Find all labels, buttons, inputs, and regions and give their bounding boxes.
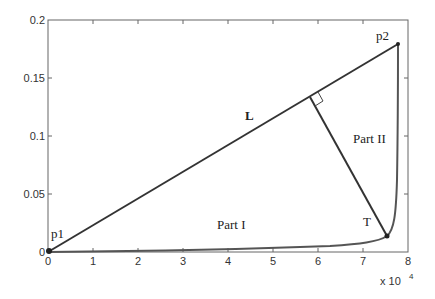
y-tick-labels: 0 0.05 0.1 0.15 0.2 xyxy=(24,14,45,258)
svg-text:0: 0 xyxy=(39,246,45,258)
svg-text:6: 6 xyxy=(315,255,321,267)
label-p1: p1 xyxy=(51,226,64,241)
label-L: L xyxy=(245,108,254,123)
point-p2 xyxy=(396,42,400,46)
svg-text:0.1: 0.1 xyxy=(30,130,45,142)
svg-text:0.05: 0.05 xyxy=(24,188,45,200)
x-multiplier-exponent: 4 xyxy=(409,272,414,281)
point-T xyxy=(385,234,390,239)
svg-text:1: 1 xyxy=(90,255,96,267)
label-T: T xyxy=(363,214,371,229)
line-T xyxy=(310,97,387,236)
svg-text:0.2: 0.2 xyxy=(30,14,45,26)
label-part1: Part I xyxy=(217,217,246,232)
chart-svg: 0 1 2 3 4 5 6 7 8 0 0.05 0.1 0.15 0.2 x … xyxy=(0,0,435,299)
svg-text:5: 5 xyxy=(270,255,276,267)
label-p2: p2 xyxy=(376,28,389,43)
right-angle-marker xyxy=(315,92,323,106)
svg-text:3: 3 xyxy=(180,255,186,267)
label-part2: Part II xyxy=(353,131,386,146)
x-multiplier: x 10 xyxy=(380,275,401,287)
svg-text:4: 4 xyxy=(225,255,231,267)
point-p1 xyxy=(46,248,52,254)
svg-text:7: 7 xyxy=(360,255,366,267)
x-tick-labels: 0 1 2 3 4 5 6 7 8 xyxy=(45,255,411,267)
svg-text:0.15: 0.15 xyxy=(24,72,45,84)
svg-text:2: 2 xyxy=(135,255,141,267)
svg-text:0: 0 xyxy=(45,255,51,267)
svg-text:8: 8 xyxy=(405,255,411,267)
